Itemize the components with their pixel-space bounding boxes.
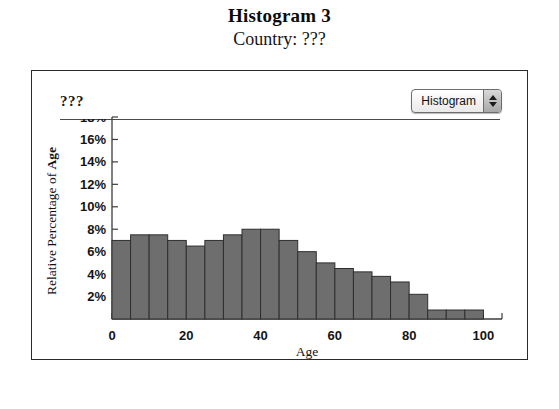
- y-tick-label: 6%: [87, 244, 106, 259]
- chart-panel: ??? Histogram 2%4%6%8%10%12%14%16%18% 02…: [31, 70, 528, 360]
- histogram-bar: [428, 310, 447, 319]
- histogram-bar: [409, 294, 428, 319]
- histogram-bar: [223, 235, 242, 319]
- histogram-bar: [279, 240, 298, 319]
- histogram-bar: [112, 240, 131, 319]
- histogram-bars: [112, 229, 483, 319]
- histogram-bar: [186, 246, 205, 319]
- histogram-bar: [298, 252, 317, 319]
- histogram-bar: [261, 229, 280, 319]
- y-tick-label: 2%: [87, 289, 106, 304]
- histogram-bar: [372, 276, 391, 319]
- x-axis-title: Age: [296, 344, 319, 359]
- y-tick-label: 14%: [80, 154, 106, 169]
- histogram-bar: [168, 240, 187, 319]
- y-tick-label: 18%: [80, 110, 106, 125]
- y-tick-label: 4%: [87, 267, 106, 282]
- y-tick-label: 12%: [80, 177, 106, 192]
- histogram-bar: [465, 310, 484, 319]
- y-axis-title-plain: Relative Percentage of: [44, 169, 59, 295]
- histogram-bar: [446, 310, 465, 319]
- y-axis-title-bold: Age: [44, 147, 59, 170]
- y-tick-label: 8%: [87, 222, 106, 237]
- svg-text:Relative Percentage of Age: Relative Percentage of Age: [44, 147, 59, 295]
- plot-area: 2%4%6%8%10%12%14%16%18% 020406080100 Rel…: [32, 71, 527, 359]
- y-tick-label: 10%: [80, 199, 106, 214]
- histogram-bar: [316, 263, 335, 319]
- x-tick-label: 0: [108, 328, 115, 343]
- histogram-bar: [353, 272, 372, 319]
- histogram-bar: [335, 269, 354, 320]
- x-tick-label: 80: [402, 328, 416, 343]
- figure-subtitle: Country: ???: [0, 28, 559, 51]
- y-axis-title: Relative Percentage of Age: [44, 147, 59, 295]
- histogram-bar: [205, 240, 224, 319]
- x-tick-label: 20: [179, 328, 193, 343]
- figure-heading: Histogram 3 Country: ???: [0, 4, 559, 51]
- x-tick-label: 100: [473, 328, 495, 343]
- histogram-bar: [391, 282, 410, 319]
- page-title: Histogram 3: [0, 4, 559, 28]
- histogram-bar: [242, 229, 261, 319]
- x-tick-label: 40: [253, 328, 267, 343]
- y-tick-label: 16%: [80, 132, 106, 147]
- histogram-plot: 2%4%6%8%10%12%14%16%18% 020406080100 Rel…: [32, 71, 529, 361]
- x-tick-label: 60: [328, 328, 342, 343]
- histogram-bar: [149, 235, 168, 319]
- histogram-bar: [131, 235, 150, 319]
